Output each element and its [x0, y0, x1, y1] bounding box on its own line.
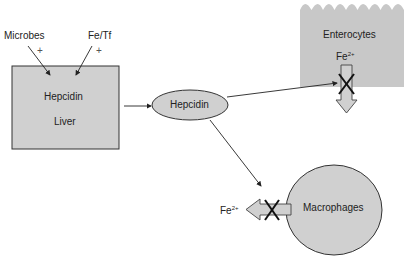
fe-ion-text: Fe	[336, 51, 348, 62]
liver-box	[12, 66, 119, 149]
hepcidin-node-label: Hepcidin	[170, 100, 209, 110]
fetf-plus-sign: +	[96, 46, 102, 56]
liver-hepcidin-label: Hepcidin	[44, 92, 83, 102]
macrophage-fe-label: Fe2+	[220, 205, 239, 216]
hepcidin-to-enterocytes-arrow	[227, 83, 337, 97]
microbes-plus-sign: +	[37, 46, 43, 56]
macrophage-export-arrow	[246, 199, 291, 220]
fetf-label: Fe/Tf	[88, 31, 111, 41]
liver-label: Liver	[54, 117, 76, 127]
fe-charge-text: 2+	[348, 51, 355, 57]
hepcidin-to-macrophages-arrow	[210, 120, 261, 186]
enterocytes-label: Enterocytes	[323, 30, 376, 40]
macrophages-label: Macrophages	[303, 203, 364, 213]
fe-charge-text: 2+	[232, 205, 239, 211]
fe-ion-text: Fe	[220, 205, 232, 216]
enterocyte-fe-label: Fe2+	[336, 51, 355, 62]
microbes-label: Microbes	[4, 31, 45, 41]
